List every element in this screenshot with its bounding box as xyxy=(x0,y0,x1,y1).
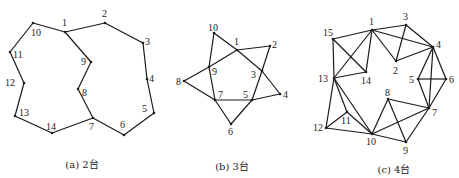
node-label-6: 6 xyxy=(120,119,125,130)
edge-15-13 xyxy=(333,39,334,78)
node-1 xyxy=(64,31,67,34)
node-label-1: 1 xyxy=(369,16,374,27)
edge-1-3 xyxy=(237,50,262,71)
node-label-12: 12 xyxy=(5,77,15,88)
node-13 xyxy=(333,77,336,80)
node-4 xyxy=(146,78,149,81)
edge-1-2 xyxy=(372,30,396,61)
node-3 xyxy=(405,24,408,27)
node-label-1: 1 xyxy=(234,36,239,47)
node-5 xyxy=(417,78,420,81)
edge-1-9 xyxy=(65,32,91,62)
node-label-2: 2 xyxy=(102,8,107,19)
node-2 xyxy=(104,22,107,25)
node-9 xyxy=(405,141,408,144)
caption-a: (a) 2台 xyxy=(65,156,98,171)
node-label-1: 1 xyxy=(62,17,67,28)
caption-b: (b) 3台 xyxy=(215,158,249,173)
node-2 xyxy=(269,45,272,48)
node-label-10: 10 xyxy=(208,22,218,33)
edge-6-7 xyxy=(429,79,446,108)
node-label-8: 8 xyxy=(385,87,390,98)
node-label-5: 5 xyxy=(409,74,414,85)
node-8 xyxy=(77,88,80,91)
node-label-13: 13 xyxy=(19,107,29,118)
node-label-3: 3 xyxy=(145,36,150,47)
edge-5-4 xyxy=(252,94,280,100)
edge-2-3 xyxy=(262,46,270,71)
node-8 xyxy=(183,80,186,83)
node-8 xyxy=(387,98,390,101)
node-7 xyxy=(428,107,431,110)
node-label-15: 15 xyxy=(323,27,333,38)
node-label-10: 10 xyxy=(366,136,376,147)
node-label-6: 6 xyxy=(449,74,454,85)
edge-1-2 xyxy=(65,23,105,32)
node-6 xyxy=(445,78,448,81)
node-6 xyxy=(123,134,126,137)
node-12 xyxy=(325,127,328,130)
node-label-4: 4 xyxy=(283,89,288,100)
node-9 xyxy=(208,66,211,69)
node-label-4: 4 xyxy=(149,73,154,84)
node-10 xyxy=(32,22,35,25)
node-12 xyxy=(23,82,26,85)
node-label-10: 10 xyxy=(31,27,41,38)
edge-9-1 xyxy=(209,50,237,67)
node-label-9: 9 xyxy=(81,56,86,67)
node-2 xyxy=(395,60,398,63)
edge-11-10 xyxy=(10,23,33,52)
caption-c: (c) 4台 xyxy=(378,161,411,176)
panel-a: 1234567891011121314 xyxy=(5,8,155,136)
edge-1-3 xyxy=(372,25,406,30)
edge-12-13 xyxy=(326,78,334,128)
node-label-7: 7 xyxy=(218,89,223,100)
node-14 xyxy=(365,71,368,74)
node-label-13: 13 xyxy=(318,73,328,84)
node-4 xyxy=(279,93,282,96)
node-7 xyxy=(214,99,217,102)
node-label-7: 7 xyxy=(432,107,437,118)
node-label-14: 14 xyxy=(46,121,56,132)
edge-3-4 xyxy=(143,43,147,79)
node-9 xyxy=(90,61,93,64)
node-label-4: 4 xyxy=(436,39,441,50)
node-3 xyxy=(261,70,264,73)
edge-3-2 xyxy=(396,25,406,61)
node-11 xyxy=(9,51,12,54)
node-3 xyxy=(142,42,145,45)
node-7 xyxy=(92,117,95,120)
edge-8-9 xyxy=(184,67,209,81)
node-label-2: 2 xyxy=(393,65,398,76)
node-5 xyxy=(153,112,156,115)
edge-4-6 xyxy=(433,47,446,79)
node-label-5: 5 xyxy=(142,103,147,114)
node-15 xyxy=(332,38,335,41)
edge-10-12 xyxy=(326,128,372,134)
edge-8-10 xyxy=(372,99,388,134)
node-1 xyxy=(371,29,374,32)
edge-10-13 xyxy=(334,78,372,134)
edge-5-7 xyxy=(418,79,429,108)
graph-diagram: 1234567891011121314123456789101234567891… xyxy=(0,0,459,178)
node-label-9: 9 xyxy=(212,66,217,77)
node-14 xyxy=(51,132,54,135)
node-13 xyxy=(14,115,17,118)
edge-7-8 xyxy=(388,99,429,108)
node-label-11: 11 xyxy=(341,115,351,126)
node-label-7: 7 xyxy=(89,121,94,132)
node-4 xyxy=(432,46,435,49)
edge-6-7 xyxy=(215,100,231,124)
edge-2-3 xyxy=(105,23,143,43)
node-label-14: 14 xyxy=(361,75,371,86)
node-label-3: 3 xyxy=(403,11,408,22)
node-11 xyxy=(346,111,349,114)
node-label-11: 11 xyxy=(13,49,23,60)
node-label-8: 8 xyxy=(176,76,181,87)
edge-9-10 xyxy=(209,33,214,67)
node-5 xyxy=(251,99,254,102)
edge-5-6 xyxy=(124,113,154,135)
node-label-8: 8 xyxy=(82,87,87,98)
edge-5-6 xyxy=(231,100,252,124)
node-label-12: 12 xyxy=(313,122,323,133)
